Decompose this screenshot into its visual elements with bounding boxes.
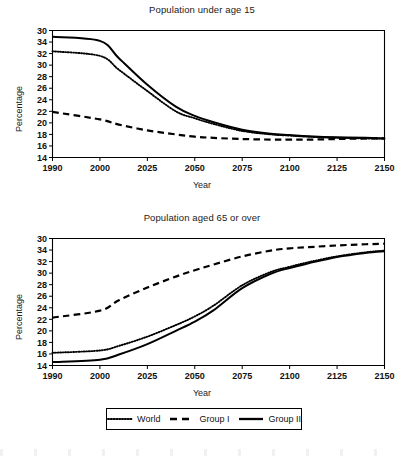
legend-entry-world: World	[107, 414, 160, 424]
y-tick-label: 16	[37, 349, 47, 359]
legend-label-group-2: Group II	[268, 414, 301, 424]
x-tick-label: 2000	[90, 371, 110, 381]
y-axis-ticks-top: 141618202224262830323430	[37, 26, 53, 163]
y-tick-label: 28	[37, 280, 47, 290]
series-line-group-ii	[53, 251, 385, 362]
x-axis-ticks-top: 19902000202520502075210021252150	[42, 158, 394, 173]
y-tick-label: 30	[37, 234, 47, 244]
x-tick-label: 2000	[90, 163, 110, 173]
y-tick-label: 14	[37, 153, 47, 163]
y-tick-label: 30	[37, 26, 47, 36]
x-axis-ticks-bottom: 19902000202520502075210021252150	[42, 366, 394, 381]
x-tick-label: 1990	[42, 371, 62, 381]
y-tick-label: 30	[37, 268, 47, 278]
y-tick-label: 34	[37, 245, 47, 255]
y-tick-label: 24	[37, 95, 47, 105]
y-tick-label: 22	[37, 315, 47, 325]
y-tick-label: 34	[37, 37, 47, 47]
x-tick-label: 2125	[327, 371, 347, 381]
y-axis-ticks-bottom: 141618202224262830323430	[37, 234, 53, 371]
chart-legend: World Group I Group II	[106, 408, 302, 430]
x-tick-label: 2025	[137, 371, 157, 381]
x-tick-label: 2150	[374, 163, 394, 173]
legend-entry-group-2: Group II	[238, 414, 301, 424]
x-tick-label: 2075	[232, 163, 252, 173]
y-tick-label: 24	[37, 303, 47, 313]
series-line-world	[53, 251, 385, 353]
population-age-structure-figure: Population under age 15 Percentage Year …	[0, 0, 404, 456]
series-line-group-ii	[53, 37, 385, 139]
chart-panel-under-15: Population under age 15 Percentage Year …	[0, 0, 404, 200]
y-tick-label: 28	[37, 72, 47, 82]
x-tick-label: 2025	[137, 163, 157, 173]
y-tick-label: 18	[37, 130, 47, 140]
data-series-group-top	[53, 37, 385, 140]
legend-swatch-solid-icon	[238, 415, 264, 423]
y-tick-label: 20	[37, 118, 47, 128]
x-tick-label: 2150	[374, 371, 394, 381]
y-tick-label: 32	[37, 257, 47, 267]
y-tick-label: 26	[37, 291, 47, 301]
plot-area-under-15: 141618202224262830323430 199020002025205…	[0, 0, 404, 200]
y-tick-label: 20	[37, 326, 47, 336]
legend-entry-group-1: Group I	[169, 414, 229, 424]
legend-swatch-dotted-icon	[107, 415, 133, 423]
y-tick-label: 22	[37, 107, 47, 117]
x-tick-label: 1990	[42, 163, 62, 173]
y-tick-label: 32	[37, 49, 47, 59]
y-tick-label: 16	[37, 141, 47, 151]
x-tick-label: 2125	[327, 163, 347, 173]
legend-label-world: World	[137, 414, 160, 424]
y-tick-label: 26	[37, 83, 47, 93]
plot-area-65-over: 141618202224262830323430 199020002025205…	[0, 208, 404, 408]
x-tick-label: 2100	[280, 163, 300, 173]
y-tick-label: 18	[37, 338, 47, 348]
y-tick-label: 30	[37, 60, 47, 70]
legend-swatch-dashed-icon	[169, 415, 195, 423]
page-edge-artifact	[0, 449, 404, 456]
series-line-world	[53, 51, 385, 138]
x-tick-label: 2050	[185, 163, 205, 173]
x-tick-label: 2050	[185, 371, 205, 381]
chart-panel-65-over: Population aged 65 or over Percentage Ye…	[0, 208, 404, 398]
legend-label-group-1: Group I	[199, 414, 229, 424]
x-tick-label: 2075	[232, 371, 252, 381]
data-series-group-bottom	[53, 244, 385, 362]
y-tick-label: 14	[37, 361, 47, 371]
x-tick-label: 2100	[280, 371, 300, 381]
